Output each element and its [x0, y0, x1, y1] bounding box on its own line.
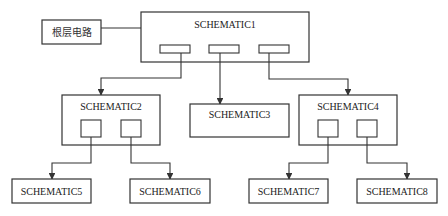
schematic6-node: SCHEMATIC6	[130, 179, 210, 203]
schematic2-port-1	[81, 120, 101, 137]
hierarchy-diagram: 根层电路 SCHEMATIC1 SCHEMATIC2 SCHEMATIC3 SC…	[0, 0, 448, 216]
schematic2-label: SCHEMATIC2	[80, 101, 142, 112]
schematic7-label: SCHEMATIC7	[258, 186, 320, 197]
schematic4-port-1	[318, 120, 338, 137]
schematic8-label: SCHEMATIC8	[366, 186, 428, 197]
root-circuit-label: 根层电路	[52, 26, 92, 38]
schematic3-node: SCHEMATIC3	[190, 104, 289, 137]
schematic5-label: SCHEMATIC5	[21, 186, 83, 197]
schematic3-label: SCHEMATIC3	[209, 109, 271, 120]
schematic2-port-2	[121, 120, 141, 137]
schematic1-label: SCHEMATIC1	[194, 19, 256, 30]
schematic6-label: SCHEMATIC6	[139, 186, 201, 197]
schematic1-port-2	[209, 45, 239, 53]
schematic5-node: SCHEMATIC5	[12, 179, 91, 203]
root-circuit-node: 根层电路	[42, 20, 101, 44]
schematic1-node: SCHEMATIC1	[141, 12, 309, 62]
schematic4-label: SCHEMATIC4	[317, 101, 379, 112]
schematic8-node: SCHEMATIC8	[357, 179, 437, 203]
schematic1-port-3	[259, 45, 289, 53]
schematic1-port-1	[160, 45, 190, 53]
schematic4-node: SCHEMATIC4	[299, 95, 397, 145]
schematic4-port-2	[357, 120, 377, 137]
schematic7-node: SCHEMATIC7	[249, 179, 328, 203]
schematic2-node: SCHEMATIC2	[62, 95, 160, 145]
